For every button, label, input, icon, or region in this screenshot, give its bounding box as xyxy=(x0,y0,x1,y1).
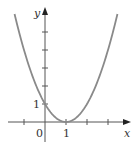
x-axis-arrow-icon xyxy=(123,119,131,125)
y-axis-arrow-icon xyxy=(42,7,48,15)
parabola-curve xyxy=(15,14,118,122)
x-tick-label: 1 xyxy=(63,127,70,140)
ticks xyxy=(24,32,108,125)
x-tick-label: 0 xyxy=(36,127,43,140)
x-axis-label: x xyxy=(124,127,131,140)
parabola-chart: x y 011 xyxy=(0,0,134,146)
tick-labels: 011 xyxy=(33,98,70,140)
y-tick-label: 1 xyxy=(33,98,40,111)
y-axis-label: y xyxy=(33,7,41,20)
